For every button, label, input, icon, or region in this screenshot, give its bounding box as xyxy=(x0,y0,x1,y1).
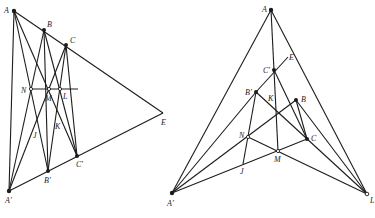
label-B: B xyxy=(301,95,306,104)
point-C xyxy=(305,137,309,141)
label-L: L xyxy=(62,92,68,101)
label-Cprime: C' xyxy=(263,66,270,75)
point-Bprime xyxy=(254,90,258,94)
point-L xyxy=(58,87,61,90)
line-A-M xyxy=(271,10,278,151)
point-N xyxy=(246,135,249,138)
label-K: K xyxy=(54,122,61,131)
line-A-L xyxy=(271,10,367,194)
label-M: M xyxy=(273,155,282,164)
point-Aprime xyxy=(170,191,174,195)
label-L: L xyxy=(369,196,375,205)
line-E-Bprime xyxy=(256,57,288,92)
label-E: E xyxy=(288,53,294,62)
point-B xyxy=(294,98,298,102)
point-L xyxy=(365,192,369,196)
line-Aprime-Bprime xyxy=(172,92,256,193)
right-figure: A E C' B' K B N C M J A' L xyxy=(166,5,375,208)
label-C: C xyxy=(70,36,76,45)
point-M xyxy=(276,149,279,152)
line-Bprime-L xyxy=(256,92,367,194)
point-C xyxy=(64,43,68,47)
label-Aprime: A' xyxy=(4,196,12,205)
line-C-Bprime xyxy=(48,45,66,171)
line-B-Aprime xyxy=(9,30,44,191)
point-Bprime xyxy=(46,169,50,173)
label-J: J xyxy=(240,167,244,176)
line-Cprime-C xyxy=(274,70,307,139)
point-N xyxy=(29,87,32,90)
line-N-L xyxy=(248,137,367,194)
label-Bprime: B' xyxy=(44,176,51,185)
point-Cprime xyxy=(75,154,79,158)
label-N: N xyxy=(238,131,245,140)
line-A-Aprime xyxy=(172,10,271,193)
line-B-Cprime xyxy=(44,30,77,156)
line-Aprime-E xyxy=(9,113,163,191)
label-E: E xyxy=(160,118,166,127)
point-A xyxy=(12,9,16,13)
label-M: M xyxy=(44,94,53,103)
label-B: B xyxy=(47,20,52,29)
point-B xyxy=(42,28,46,32)
label-Cprime: C' xyxy=(76,160,83,169)
left-figure: A B C N M L J K E C' B' A' xyxy=(3,6,166,205)
label-A: A xyxy=(261,5,267,14)
label-Bprime: B' xyxy=(245,88,252,97)
line-Aprime-C xyxy=(172,139,307,193)
line-C-Cprime xyxy=(66,45,77,156)
line-C-Aprime xyxy=(9,45,66,191)
label-A: A xyxy=(3,6,9,15)
point-A xyxy=(269,8,273,12)
line-B-L xyxy=(296,100,367,194)
point-Aprime xyxy=(7,189,11,193)
label-K: K xyxy=(267,94,274,103)
label-N: N xyxy=(20,86,27,95)
line-A-Aprime xyxy=(9,11,14,191)
line-Bprime-J xyxy=(243,92,256,164)
label-C: C xyxy=(311,134,317,143)
label-Aprime: A' xyxy=(166,199,174,208)
diagram-canvas: A B C N M L J K E C' B' A' A xyxy=(0,0,375,218)
point-M xyxy=(47,87,50,90)
point-Cprime xyxy=(272,68,276,72)
label-J: J xyxy=(33,131,37,140)
